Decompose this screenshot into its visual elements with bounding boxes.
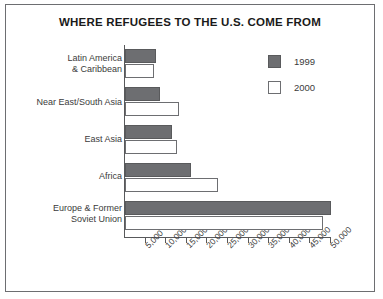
bar-1999-africa (125, 163, 191, 177)
bar-2000-east-asia (125, 140, 177, 154)
legend-label-2000: 2000 (294, 82, 315, 93)
chart-frame: WHERE REFUGEES TO THE U.S. COME FROM Lat… (5, 4, 375, 292)
legend-label-1999: 1999 (294, 56, 315, 67)
category-label-line1: Europe & Former (53, 203, 122, 213)
category-label-near-east-south-asia: Near East/South Asia (14, 97, 122, 108)
legend-entry-1999: 1999 (268, 53, 363, 70)
category-label-africa: Africa (14, 171, 122, 182)
bar-2000-latin-america (125, 64, 154, 78)
x-axis-tick-labels: 5,00010,00015,00020,00025,00030,00035,00… (124, 243, 383, 299)
bar-1999-europe-former-soviet-union (125, 201, 331, 215)
chart-legend: 1999 2000 (268, 53, 363, 105)
category-label-line1: Near East/South Asia (36, 97, 122, 107)
category-label-line2: & Caribbean (72, 64, 122, 74)
category-label-line1: East Asia (84, 134, 122, 144)
category-label-europe-former-soviet-union: Europe & Former Soviet Union (14, 203, 122, 225)
bar-1999-latin-america (125, 49, 156, 63)
legend-swatch-1999 (268, 55, 281, 68)
category-label-line1: Latin America (67, 53, 122, 63)
bar-2000-europe-former-soviet-union (125, 216, 323, 230)
category-axis-labels: Latin America & Caribbean Near East/Sout… (14, 45, 122, 237)
legend-swatch-2000 (268, 81, 281, 94)
category-label-latin-america: Latin America & Caribbean (14, 53, 122, 75)
category-label-line1: Africa (99, 171, 122, 181)
bar-1999-east-asia (125, 125, 172, 139)
bar-1999-near-east-south-asia (125, 87, 160, 101)
category-label-line2: Soviet Union (71, 214, 122, 224)
bar-2000-near-east-south-asia (125, 102, 179, 116)
chart-title: WHERE REFUGEES TO THE U.S. COME FROM (6, 16, 374, 28)
category-label-east-asia: East Asia (14, 134, 122, 145)
x-tick-label-50000: 50,000 (328, 225, 353, 250)
legend-entry-2000: 2000 (268, 79, 363, 96)
bar-2000-africa (125, 178, 218, 192)
